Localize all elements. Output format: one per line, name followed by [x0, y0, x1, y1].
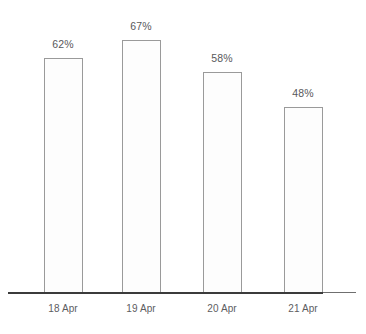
bar-value-label: 67% [114, 20, 168, 32]
bar-value-label: 48% [276, 87, 330, 99]
bar-value-label: 58% [195, 52, 249, 64]
bar-21-apr[interactable] [284, 107, 323, 293]
plot-area: 62% 67% 58% 48% 18 Apr 19 Apr 20 Apr 21 … [0, 0, 366, 334]
bar-chart: 62% 67% 58% 48% 18 Apr 19 Apr 20 Apr 21 … [0, 0, 366, 334]
category-label-18-apr: 18 Apr [36, 303, 90, 315]
bar-18-apr[interactable] [44, 58, 83, 293]
bar-19-apr[interactable] [122, 40, 161, 293]
bar-value-label: 62% [36, 38, 90, 50]
category-label-21-apr: 21 Apr [276, 303, 330, 315]
x-axis-line [8, 292, 323, 294]
bar-20-apr[interactable] [203, 72, 242, 293]
x-axis-line-tail [323, 292, 356, 293]
category-label-20-apr: 20 Apr [195, 303, 249, 315]
category-label-19-apr: 19 Apr [114, 303, 168, 315]
